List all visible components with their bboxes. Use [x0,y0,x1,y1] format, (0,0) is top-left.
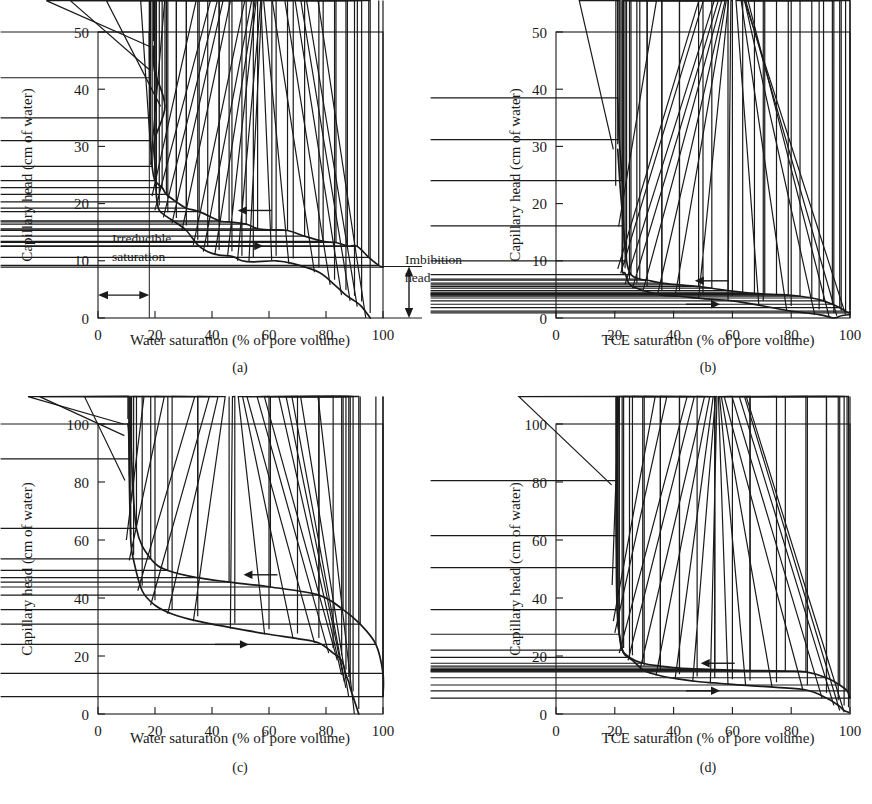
y-tick-label-a-30: 30 [74,139,89,155]
direction-arrow-d-drainage-head [701,659,710,667]
panel-c-x-axis-title: Water saturation (% of pore volume) [130,730,350,747]
data-point-plus [1,1,348,246]
plot-frame-a [98,32,383,318]
data-point-plus [431,1,620,140]
y-tick-label-d-60: 60 [532,533,547,549]
data-point-plus [431,1,624,226]
panel-d: 020406080100020406080100 Capillary head … [430,396,872,804]
x-tick-label-b-0: 0 [552,327,560,343]
data-point-triangle [46,0,153,46]
data-point-plus [431,397,617,481]
x-tick-label-a-100: 100 [372,327,395,343]
panel-b-x-axis-title: TCE saturation (% of pore volume) [602,332,815,349]
markers-b-drainage [431,1,850,313]
data-point-plus [1,397,383,674]
panel-b: 02040608010001020304050 Capillary head (… [430,0,872,400]
x-tick-label-b-100: 100 [839,327,862,343]
data-point-triangle [579,0,617,149]
y-tick-label-c-60: 60 [74,533,89,549]
panel-b-label: (b) [700,360,717,376]
data-point-triangle [699,0,729,298]
data-point-plus [431,397,623,651]
data-point-triangle [739,396,838,705]
data-point-triangle [619,0,657,226]
panel-a-x-axis-title: Water saturation (% of pore volume) [130,332,350,349]
y-tick-label-a-0: 0 [82,311,90,327]
data-point-plus [1,397,319,596]
panel-a-y-axis-title: Capillary head (cm of water) [19,88,36,261]
imbibition-head-arrow-head-down [405,308,413,318]
data-point-triangle [632,0,718,288]
irreducible-saturation-label-line2: saturation [112,249,165,264]
imbibition-head-label-line2: head [405,270,431,285]
data-point-triangle [732,396,826,698]
y-tick-label-d-20: 20 [532,649,547,665]
y-tick-label-a-20: 20 [74,196,89,212]
y-tick-label-d-100: 100 [525,417,548,433]
panel-d-y-axis-title: Capillary head (cm of water) [507,482,524,655]
panel-d-label: (d) [700,760,717,776]
data-point-triangle [318,0,370,318]
data-point-triangle [261,0,276,260]
data-point-plus [431,1,631,275]
data-point-triangle [728,0,732,300]
irreducible-saturation-arrow-head-left [98,291,108,299]
data-point-triangle [168,396,218,614]
markers-a-drainage [1,1,383,267]
markers-d-drainage [431,397,850,698]
y-tick-label-b-50: 50 [532,25,547,41]
data-point-triangle [203,0,251,251]
markers-c-imbibition [28,396,359,714]
capillary-pressure-figure: 02040608010001020304050 Capillary head (… [0,0,872,804]
y-tick-label-d-80: 80 [532,475,547,491]
x-tick-label-c-100: 100 [372,723,395,739]
data-point-triangle [264,396,341,660]
data-point-triangle [230,396,234,628]
y-tick-label-c-20: 20 [74,649,89,665]
panel-d-plot: 020406080100020406080100 [431,396,862,739]
data-point-plus [431,397,630,658]
data-point-triangle [718,396,732,684]
y-tick-label-b-40: 40 [532,82,547,98]
x-tick-label-d-0: 0 [552,723,560,739]
data-point-triangle [295,0,346,295]
data-point-triangle [724,396,807,690]
x-tick-label-c-0: 0 [94,723,102,739]
x-tick-label-d-100: 100 [839,723,862,739]
y-tick-label-b-20: 20 [532,196,547,212]
data-point-triangle [741,0,791,311]
data-point-triangle [138,396,195,590]
data-point-plus [431,1,680,285]
data-point-triangle [247,396,319,643]
panel-c-plot: 020406080100020406080100 [1,396,395,739]
data-point-triangle [656,396,710,675]
panel-c: 020406080100020406080100 Capillary head … [0,396,436,804]
panel-c-y-axis-title: Capillary head (cm of water) [19,482,36,655]
data-point-plus [1,397,376,645]
markers-c-drainage [1,397,383,697]
markers-a-imbibition [46,0,370,318]
data-point-plus [431,1,623,181]
data-point-plus [1,1,272,230]
markers-b-imbibition [579,0,850,318]
panel-a-label: (a) [232,360,248,376]
y-tick-label-c-80: 80 [74,475,89,491]
x-tick-label-a-0: 0 [94,327,102,343]
panel-b-plot: 02040608010001020304050 [431,0,862,343]
data-point-plus [1,1,383,267]
direction-arrow-c-imbibition-head [240,640,249,648]
data-point-plus [431,1,789,296]
data-point-triangle [301,396,353,696]
direction-arrow-b-drainage-head [695,277,704,285]
data-point-triangle [710,396,717,683]
panel-a: 02040608010001020304050 Capillary head (… [0,0,436,400]
data-point-plus [431,1,846,312]
panel-a-plot: 02040608010001020304050 [1,0,422,343]
markers-d-imbibition [519,396,849,712]
direction-arrow-c-drainage-head [243,571,252,579]
data-point-triangle [272,0,319,272]
panel-c-svg: 020406080100020406080100 Capillary head … [0,396,436,804]
y-tick-label-a-40: 40 [74,82,89,98]
data-point-plus [431,1,618,98]
data-point-plus [431,397,850,698]
